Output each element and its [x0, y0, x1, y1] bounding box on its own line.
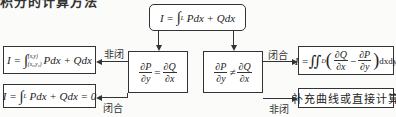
path-independent-integral-box: I = ∫ (x,y) (x₀,y₀) Pdx + Qdx — [3, 46, 96, 74]
minus-sign: − — [350, 55, 356, 67]
arrow-left-top — [96, 59, 102, 65]
upper-limit: (x,y) — [28, 52, 42, 60]
connector-left-bottom — [102, 97, 128, 98]
edge-label-closed: 闭合 — [103, 100, 123, 115]
equals-sign: = — [154, 66, 160, 78]
edge-label-non-closed: 非闭 — [269, 101, 289, 116]
connector-top-left — [158, 31, 159, 46]
lower-limit: (x₀,y₀) — [28, 60, 42, 68]
fraction-dq-dx: ∂Q∂x — [237, 61, 251, 84]
connector-left-top — [102, 61, 128, 62]
arrow-right-top — [292, 59, 298, 65]
condition-equal-box: ∂P∂y = ∂Q∂x — [128, 51, 188, 93]
edge-label-closed: 闭合 — [268, 47, 288, 62]
condition-not-equal-box: ∂P∂y ≠ ∂Q∂x — [203, 51, 263, 93]
closed-zero-integral-box: I = ∫L Pdx + Qdx = 0 — [3, 84, 96, 108]
double-integral-sign: ∬ — [309, 52, 322, 70]
arrow-left-bottom — [96, 95, 102, 101]
lhs: I = — [160, 12, 174, 24]
rhs: Pdx + Qdx — [187, 12, 235, 24]
connector-right-bottom — [263, 98, 292, 99]
fraction-dp-dy: ∂P∂y — [214, 61, 227, 84]
not-equal-sign: ≠ — [229, 66, 235, 78]
integral-sub: L — [181, 15, 184, 21]
connector-top-right — [233, 31, 234, 46]
diagram-title-partial: 积分的计算方法 — [0, 0, 98, 10]
top-integral-box: I = ∫L Pdx + Qdx — [149, 4, 246, 31]
green-formula-box: I = ∬D ( ∂Q∂x − ∂P∂y )dxdy — [298, 46, 394, 75]
edge-label-non-closed: 非闭 — [104, 46, 124, 61]
fraction-dq-dx: ∂Q∂x — [163, 61, 177, 84]
supplement-curve-box: 补充曲线或直接计算 — [298, 88, 394, 108]
arrow-right-bottom — [292, 96, 298, 102]
fraction-dp-dy: ∂P∂y — [139, 61, 152, 84]
